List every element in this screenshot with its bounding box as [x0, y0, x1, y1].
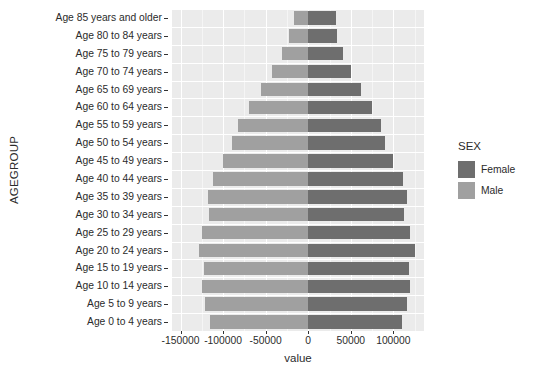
x-axis-tick-mark	[223, 331, 224, 334]
gridline-horizontal	[172, 313, 424, 314]
y-axis-tick-mark	[164, 90, 168, 91]
x-axis-tick-mark	[266, 331, 267, 334]
x-axis-tick-mark	[308, 331, 309, 334]
bar-female	[308, 47, 343, 61]
bar-male	[272, 65, 308, 79]
bar-male	[208, 190, 308, 204]
gridline-horizontal	[172, 277, 424, 278]
bar-male	[210, 315, 308, 329]
bar-female	[308, 226, 410, 240]
gridline-horizontal	[172, 242, 424, 243]
y-axis-tick-mark	[164, 251, 168, 252]
bar-female	[308, 29, 337, 43]
y-axis-tick-labels: Age 85 years and olderAge 80 to 84 years…	[26, 9, 168, 331]
y-axis-tick-label: Age 65 to 69 years	[76, 81, 162, 99]
gridline-horizontal	[172, 45, 424, 46]
bar-male	[238, 119, 308, 133]
plot-panel	[172, 9, 424, 331]
bar-male	[249, 101, 309, 115]
bar-female	[308, 119, 380, 133]
gridline-horizontal	[172, 188, 424, 189]
bar-male	[209, 208, 309, 222]
bar-female	[308, 65, 351, 79]
gridline-horizontal	[172, 295, 424, 296]
legend: SEX FemaleMale	[458, 140, 542, 201]
bar-female	[308, 172, 403, 186]
bar-male	[204, 262, 308, 276]
x-axis-tick-label: -150000	[162, 335, 200, 346]
y-axis-tick-mark	[164, 179, 168, 180]
y-axis-tick-label: Age 35 to 39 years	[76, 188, 162, 206]
legend-entries: FemaleMale	[458, 159, 542, 200]
bar-female	[308, 83, 361, 97]
y-axis-tick-label: Age 70 to 74 years	[76, 63, 162, 81]
y-axis-tick-label: Age 40 to 44 years	[76, 170, 162, 188]
x-axis-tick-labels: -150000-100000-50000050000100000	[172, 331, 424, 351]
bar-male	[232, 136, 308, 150]
x-axis-tick-mark	[181, 331, 182, 334]
bar-female	[308, 208, 404, 222]
x-axis-tick-mark	[393, 331, 394, 334]
legend-swatch	[458, 161, 475, 178]
bar-male	[213, 172, 308, 186]
y-axis-tick-mark	[164, 268, 168, 269]
x-axis-tick-label: 100000	[376, 335, 410, 346]
y-axis-tick-label: Age 75 to 79 years	[76, 45, 162, 63]
population-pyramid-chart: AGEGROUP Age 85 years and olderAge 80 to…	[0, 0, 544, 378]
bar-male	[223, 154, 308, 168]
y-axis-tick-label: Age 25 to 29 years	[76, 224, 162, 242]
bar-female	[308, 136, 385, 150]
legend-key	[458, 161, 475, 178]
bar-male	[202, 226, 308, 240]
legend-key	[458, 182, 475, 199]
legend-swatch	[458, 182, 475, 199]
legend-item: Male	[458, 180, 542, 200]
y-axis-tick-label: Age 45 to 49 years	[76, 152, 162, 170]
bar-male	[205, 297, 308, 311]
bar-male	[294, 11, 308, 25]
y-axis-tick-label: Age 30 to 34 years	[76, 206, 162, 224]
y-axis-tick-mark	[164, 72, 168, 73]
y-axis-tick-mark	[164, 286, 168, 287]
y-axis-tick-label: Age 60 to 64 years	[76, 98, 162, 116]
gridline-horizontal	[172, 81, 424, 82]
y-axis-tick-mark	[164, 36, 168, 37]
y-axis-tick-mark	[164, 215, 168, 216]
gridline-horizontal	[172, 27, 424, 28]
bar-female	[308, 280, 410, 294]
legend-item: Female	[458, 159, 542, 179]
gridline-horizontal	[172, 9, 424, 10]
bar-female	[308, 244, 414, 258]
legend-label: Male	[481, 185, 503, 196]
bar-male	[282, 47, 308, 61]
bar-female	[308, 11, 336, 25]
bar-female	[308, 297, 407, 311]
y-axis-tick-label: Age 0 to 4 years	[87, 313, 162, 331]
y-axis-tick-mark	[164, 233, 168, 234]
y-axis-tick-label: Age 20 to 24 years	[76, 242, 162, 260]
y-axis-tick-mark	[164, 125, 168, 126]
x-axis-tick-label: 0	[305, 335, 311, 346]
legend-title: SEX	[458, 140, 542, 152]
y-axis-tick-label: Age 10 to 14 years	[76, 277, 162, 295]
y-axis-tick-mark	[164, 161, 168, 162]
bar-male	[202, 280, 308, 294]
x-axis-tick-mark	[351, 331, 352, 334]
bar-female	[308, 101, 372, 115]
bar-male	[261, 83, 309, 97]
y-axis-tick-label: Age 50 to 54 years	[76, 134, 162, 152]
legend-label: Female	[481, 164, 515, 175]
y-axis-title: AGEGROUP	[0, 0, 28, 340]
gridline-horizontal	[172, 116, 424, 117]
y-axis-tick-mark	[164, 304, 168, 305]
x-axis-tick-label: 50000	[336, 335, 365, 346]
gridline-horizontal	[172, 98, 424, 99]
gridline-horizontal	[172, 224, 424, 225]
bar-male	[199, 244, 308, 258]
bar-female	[308, 154, 393, 168]
y-axis-tick-mark	[164, 143, 168, 144]
x-axis-tick-label: -50000	[250, 335, 282, 346]
bar-female	[308, 315, 402, 329]
y-axis-tick-label: Age 55 to 59 years	[76, 116, 162, 134]
y-axis-tick-label: Age 85 years and older	[56, 9, 162, 27]
